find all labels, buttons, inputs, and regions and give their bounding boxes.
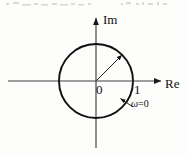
imaginary-axis-label: Im — [103, 13, 117, 26]
omega-value: =0 — [138, 98, 149, 109]
complex-plane-figure: Im Re 0 1 ω=0 — [0, 0, 187, 155]
figure-canvas — [0, 0, 187, 155]
unit-tick-label: 1 — [134, 83, 141, 96]
origin-label: 0 — [96, 83, 103, 96]
omega-annotation: ω=0 — [131, 99, 149, 109]
omega-symbol: ω — [131, 98, 138, 109]
real-axis-label: Re — [165, 77, 179, 90]
radius-vector-arrow — [97, 55, 123, 81]
